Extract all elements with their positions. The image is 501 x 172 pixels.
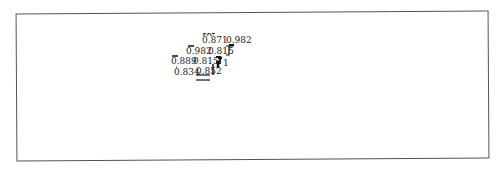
dashed-marker [203,33,215,34]
node-label: 0.815 [193,57,219,66]
node-label: 0.815 [208,47,234,56]
node-label: 0.852 [196,67,222,76]
node-label: 0.982 [226,36,252,45]
node-label: 1 [223,59,229,68]
node-label: 0.871 [202,36,228,45]
tree-edges [0,0,501,172]
